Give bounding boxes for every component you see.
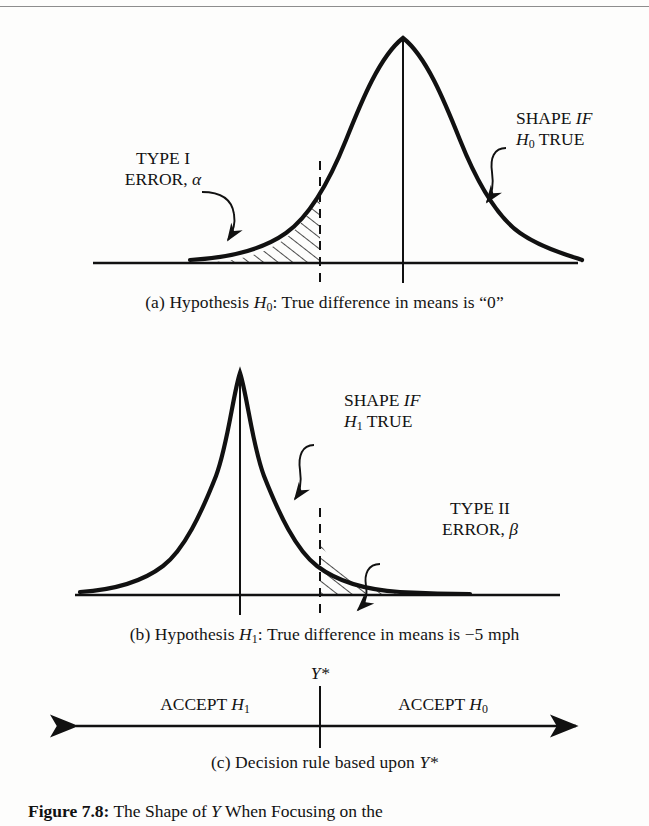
panel-a-shape-if-italic: IF — [576, 108, 593, 128]
panel-a-caption-suffix: : True difference in means is “0” — [272, 292, 503, 312]
panel-b-shape-arrow — [295, 445, 314, 499]
panel-a-type1-error-line2-prefix: ERROR, — [125, 169, 192, 189]
panel-a-type1-error-label: TYPE I ERROR, α — [88, 148, 238, 191]
figure-number: Figure 7.8: — [28, 801, 109, 821]
figure-page: TYPE I ERROR, α SHAPE IF H0 TRUE (a) Hyp… — [0, 0, 649, 826]
panel-a-shape-line2-suffix: TRUE — [535, 129, 585, 149]
panel-b-shape-if-italic: IF — [404, 390, 421, 410]
panel-a-shape-arrow — [487, 148, 506, 202]
panel-c-accept-h1-hyp: H — [231, 694, 244, 714]
panel-c-caption-prefix: (c) Decision rule based upon — [211, 752, 419, 772]
figure-caption: Figure 7.8: The Shape of Y When Focusing… — [28, 800, 628, 823]
panel-c-caption: (c) Decision rule based upon Y* — [0, 752, 649, 774]
panel-b-shape-line2-suffix: TRUE — [363, 411, 413, 431]
panel-c-threshold-var: Y* — [311, 663, 329, 683]
panel-a-type1-error-region — [206, 196, 320, 263]
panel-c-accept-h0-hyp: H — [469, 694, 482, 714]
panel-b-caption-suffix: : True difference in means is −5 mph — [258, 624, 520, 644]
panel-b-caption-hyp: H — [239, 624, 252, 644]
panel-a-shape-label: SHAPE IF H0 TRUE — [516, 108, 592, 152]
panel-b-shape-hyp: H — [344, 411, 357, 431]
figure-caption-text: The Shape of Y When Focusing on the — [113, 801, 382, 821]
panel-c-accept-h1-prefix: ACCEPT — [160, 694, 231, 714]
panel-b-caption-prefix: (b) Hypothesis — [130, 624, 239, 644]
panel-a-shape-line1-prefix: SHAPE — [516, 108, 576, 128]
figure-caption-var: Y — [211, 801, 221, 821]
panel-a-caption: (a) Hypothesis H0: True difference in me… — [0, 292, 649, 315]
panel-b-shape-label: SHAPE IF H1 TRUE — [344, 390, 420, 434]
panel-b-type2-error-line2-prefix: ERROR, — [442, 519, 509, 539]
panel-c-caption-var: Y* — [419, 752, 438, 772]
panel-a-type1-error-line1: TYPE I — [136, 148, 190, 168]
panel-b-beta-symbol: β — [509, 519, 518, 539]
panel-c-accept-h0-label: ACCEPT H0 — [348, 694, 538, 717]
panel-b-caption: (b) Hypothesis H1: True difference in me… — [0, 624, 649, 647]
panel-b-type2-error-label: TYPE II ERROR, β — [400, 498, 560, 541]
panel-c-accept-h0-sub: 0 — [482, 702, 488, 716]
panel-c-threshold-label: Y* — [285, 663, 355, 684]
panel-a-type1-error-arrow — [202, 192, 235, 240]
panel-c-accept-h1-sub: 1 — [244, 702, 250, 716]
panel-c-accept-h0-prefix: ACCEPT — [398, 694, 469, 714]
panel-b-type2-error-line1: TYPE II — [450, 498, 510, 518]
panel-a-shape-hyp: H — [516, 129, 529, 149]
panel-b-graphics — [75, 371, 560, 615]
panel-a-caption-prefix: (a) Hypothesis — [145, 292, 253, 312]
panel-b-shape-line1-prefix: SHAPE — [344, 390, 404, 410]
panel-a-alpha-symbol: α — [192, 169, 201, 189]
panel-a-caption-hyp: H — [254, 292, 267, 312]
panel-c-accept-h1-label: ACCEPT H1 — [110, 694, 300, 717]
